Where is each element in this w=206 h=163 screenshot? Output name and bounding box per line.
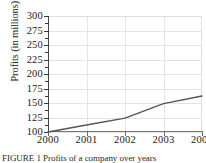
- y-tick-label: 275: [27, 25, 43, 36]
- figure-container: Profits (in millions) 100125150175200225…: [0, 0, 206, 163]
- y-axis-title: Profits (in millions): [10, 0, 21, 104]
- x-tick-label: 2003: [153, 135, 175, 146]
- plot-area: 1001251501752002252502753002000200120022…: [48, 16, 202, 132]
- y-tick-label: 175: [27, 83, 43, 94]
- y-tick-label: 200: [27, 69, 43, 80]
- x-tick-label: 2001: [76, 135, 98, 146]
- x-tick-label: 2004: [191, 135, 206, 146]
- x-tick-label: 2002: [114, 135, 136, 146]
- y-tick-label: 150: [27, 98, 43, 109]
- y-tick-label: 125: [27, 112, 43, 123]
- y-tick-label: 300: [27, 11, 43, 22]
- y-tick-label: 250: [27, 40, 43, 51]
- x-tick-label: 2000: [37, 135, 59, 146]
- figure-caption: FIGURE 1 Profits of a company over years: [2, 153, 206, 163]
- data-series-line: [48, 16, 202, 132]
- y-tick-label: 225: [27, 54, 43, 65]
